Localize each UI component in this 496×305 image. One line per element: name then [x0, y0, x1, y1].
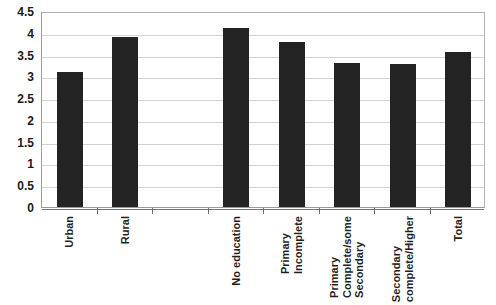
x-axis-label-text: Total	[452, 216, 465, 241]
bar	[223, 28, 249, 207]
x-axis-label: Secondarycomplete/Higher	[402, 214, 403, 305]
y-tick-label: 1	[27, 158, 34, 170]
y-tick-label: 2	[27, 115, 34, 127]
bar	[334, 63, 360, 207]
bar	[57, 72, 83, 207]
bars	[42, 13, 484, 207]
y-tick-label: 2.5	[17, 93, 34, 105]
x-axis-labels: UrbanRuralNo educationPrimaryIncompleteP…	[41, 214, 485, 305]
x-axis-label-text: No education	[230, 216, 243, 286]
x-axis-label-text: Urban	[63, 216, 76, 248]
x-axis-label: Urban	[69, 214, 70, 305]
y-axis: 4.543.532.521.510.50	[0, 0, 38, 215]
x-axis-label: Rural	[124, 214, 125, 305]
bar	[390, 64, 416, 207]
bar	[445, 52, 471, 207]
bar	[279, 42, 305, 208]
y-tick-label: 4	[27, 28, 34, 40]
y-tick-label: 3	[27, 71, 34, 83]
y-tick-label: 4.5	[17, 6, 34, 18]
bar-chart: 4.543.532.521.510.50 UrbanRuralNo educat…	[0, 0, 496, 305]
y-tick-label: 1.5	[17, 137, 34, 149]
bar	[112, 37, 138, 207]
x-axis-label: No education	[235, 214, 236, 305]
x-axis-label-text: PrimaryIncomplete	[279, 216, 304, 274]
y-tick-label: 0.5	[17, 180, 34, 192]
plot-area	[41, 12, 485, 208]
x-axis-label: PrimaryComplete/someSecondary	[346, 214, 347, 305]
y-tick-label: 3.5	[17, 50, 34, 62]
x-axis-label: Total	[457, 214, 458, 305]
x-axis-label: PrimaryIncomplete	[291, 214, 292, 305]
x-axis-label-text: PrimaryComplete/someSecondary	[328, 216, 366, 298]
x-axis-label-text: Rural	[119, 216, 132, 244]
x-axis-label-text: Secondarycomplete/Higher	[390, 216, 415, 302]
y-tick-label: 0	[27, 202, 34, 214]
